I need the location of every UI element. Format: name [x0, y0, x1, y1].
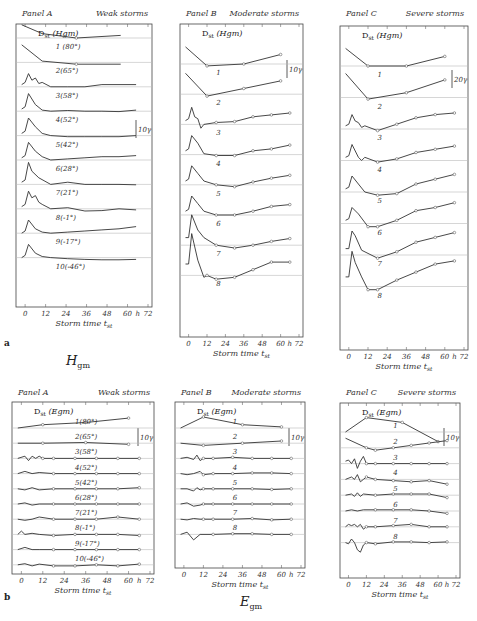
data-point — [138, 457, 141, 460]
data-point — [401, 421, 404, 424]
data-point — [74, 565, 77, 568]
x-tick-label: 36 — [398, 581, 407, 589]
x-tick-label: 36 — [238, 571, 247, 579]
series-label: 3 — [233, 448, 238, 456]
x-axis-label: Storm time tst — [212, 580, 269, 590]
scale-bar-label: 10γ — [291, 434, 305, 442]
data-point — [206, 95, 209, 98]
data-point — [446, 526, 449, 529]
x-tick-label: 48 — [102, 577, 112, 585]
data-point — [212, 457, 215, 460]
data-point — [52, 472, 55, 475]
data-point — [428, 510, 431, 513]
data-point — [117, 533, 120, 536]
x-tick-label: 36 — [239, 340, 248, 348]
x-tick-label: h — [289, 571, 294, 579]
series-line — [181, 503, 292, 506]
data-point — [138, 486, 141, 489]
data-point — [138, 518, 141, 521]
data-point — [127, 417, 130, 420]
series-label: 9(-17°) — [56, 238, 81, 246]
data-point — [428, 493, 431, 496]
data-point — [42, 457, 45, 460]
series-label: 1 — [216, 69, 220, 77]
data-point — [270, 503, 273, 506]
data-point — [215, 121, 218, 124]
data-point — [434, 263, 437, 266]
series-line — [181, 417, 282, 428]
series-line — [346, 510, 448, 514]
data-point — [251, 488, 254, 491]
data-point — [74, 472, 77, 475]
series-line — [181, 471, 292, 474]
x-tick-label: 60 — [434, 581, 443, 589]
series-line — [22, 118, 136, 137]
x-tick-label: 12 — [38, 577, 47, 585]
series-label: 1 — [233, 418, 237, 426]
chart-panel-b-panel-c: Panel CSevere storms01224364860h72Storm … — [340, 388, 461, 600]
series-label: 8 — [233, 524, 238, 532]
data-point — [392, 447, 395, 450]
data-point — [428, 442, 431, 445]
data-point — [74, 548, 77, 551]
panel-label: Panel B — [185, 9, 217, 18]
series-line — [18, 517, 140, 520]
data-point — [453, 201, 456, 204]
series-line — [22, 142, 136, 160]
series-label: 2 — [392, 438, 398, 446]
data-point — [290, 457, 293, 460]
part-b-letter: b — [4, 592, 10, 602]
chart-panel-b-panel-a: Panel AWeak storms01224364860h72Storm ti… — [12, 388, 155, 596]
series-label: 3 — [393, 454, 398, 462]
data-point — [202, 518, 205, 521]
panel-label: Panel C — [345, 388, 377, 397]
data-point — [138, 534, 141, 537]
series-label: 5 — [233, 479, 238, 487]
data-point — [280, 426, 283, 429]
x-tick-label: 12 — [364, 353, 373, 361]
series-label: 5(42°) — [56, 141, 79, 149]
chart-panel-a-panel-b: Panel BModerate storms01224364860h72Stor… — [180, 9, 304, 359]
x-tick-label: 36 — [402, 353, 411, 361]
data-point — [251, 532, 254, 535]
data-point — [367, 98, 370, 101]
data-point — [117, 548, 120, 551]
series-line — [346, 48, 445, 66]
panel-label: Panel B — [180, 388, 212, 397]
data-point — [270, 519, 273, 522]
series-line — [186, 215, 290, 248]
series-label: 1 (80°) — [56, 43, 81, 51]
data-point — [453, 260, 456, 263]
data-point — [410, 523, 413, 526]
x-tick-label: 0 — [23, 310, 28, 318]
x-tick-label: 12 — [199, 571, 208, 579]
data-point — [410, 444, 413, 447]
x-tick-label: 0 — [186, 340, 191, 348]
x-tick-label: h — [136, 310, 141, 318]
data-point — [446, 496, 449, 499]
data-point — [212, 533, 215, 536]
data-point — [270, 177, 273, 180]
x-tick-label: 0 — [19, 577, 24, 585]
data-point — [202, 488, 205, 491]
data-point — [95, 472, 98, 475]
data-point — [117, 457, 120, 460]
data-point — [52, 534, 55, 537]
chart-panel-b-panel-b: Panel BModerate storms01224364860h72Stor… — [175, 388, 306, 590]
series-label: 2 — [215, 99, 221, 107]
data-point — [365, 476, 368, 479]
plot-frame — [175, 402, 305, 568]
x-tick-label: 60 — [124, 577, 133, 585]
x-tick-label: 72 — [146, 577, 155, 585]
x-tick-label: 12 — [362, 581, 371, 589]
series-line — [22, 191, 136, 211]
series-line — [22, 220, 136, 233]
panel-label: Panel C — [345, 9, 377, 18]
data-point — [231, 503, 234, 506]
data-point — [138, 548, 141, 551]
data-point — [392, 541, 395, 544]
panel-title: Moderate storms — [230, 388, 301, 397]
data-point — [376, 129, 379, 132]
plot-frame — [180, 24, 303, 337]
x-tick-label: 36 — [82, 310, 91, 318]
